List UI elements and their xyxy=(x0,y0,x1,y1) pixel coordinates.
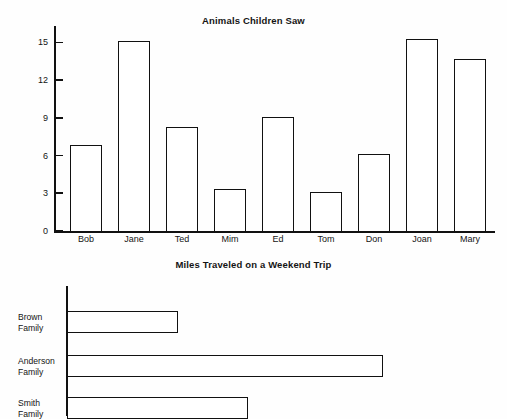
bar-jane xyxy=(118,41,150,232)
y-tick-label: 0 xyxy=(4,226,48,236)
bar-don xyxy=(358,154,390,232)
x-label-bob: Bob xyxy=(61,234,111,244)
category-label-line: Family xyxy=(18,409,64,419)
bar-anderson-family xyxy=(67,355,383,377)
bar-ed xyxy=(262,117,294,232)
y-tick-label: 6 xyxy=(4,151,48,161)
bar-tom xyxy=(310,192,342,232)
y-tick-label: 15 xyxy=(4,37,48,47)
x-label-joan: Joan xyxy=(397,234,447,244)
bar-joan xyxy=(406,39,438,232)
y-tick-mark xyxy=(56,42,63,44)
x-label-tom: Tom xyxy=(301,234,351,244)
miles-traveled-chart: Miles Traveled on a Weekend Trip BrownFa… xyxy=(0,252,507,416)
category-label-line: Smith xyxy=(18,398,64,409)
bar-mary xyxy=(454,59,486,232)
x-label-jane: Jane xyxy=(109,234,159,244)
y-tick-mark xyxy=(56,192,63,194)
y-tick-mark xyxy=(56,79,63,81)
y-axis-line xyxy=(54,26,56,233)
category-label-smith: SmithFamily xyxy=(18,398,64,419)
bar-mim xyxy=(214,189,246,232)
bar-bob xyxy=(70,145,102,232)
y-tick-mark xyxy=(56,117,63,119)
horizontal-bar-plot-area: BrownFamilyAndersonFamilySmithFamily xyxy=(0,252,507,416)
x-label-ed: Ed xyxy=(253,234,303,244)
x-label-mary: Mary xyxy=(445,234,495,244)
category-label-line: Anderson xyxy=(18,356,64,367)
x-label-don: Don xyxy=(349,234,399,244)
y-tick-mark xyxy=(56,155,63,157)
category-label-line: Family xyxy=(18,323,64,334)
category-label-anderson: AndersonFamily xyxy=(18,356,64,377)
x-label-ted: Ted xyxy=(157,234,207,244)
y-tick-mark xyxy=(56,230,63,232)
vertical-bar-plot-area: 03691215 BobJaneTedMimEdTomDonJoanMary xyxy=(0,0,507,252)
bar-smith-family xyxy=(67,397,248,419)
category-label-line: Brown xyxy=(18,312,64,323)
bar-brown-family xyxy=(67,311,178,333)
bar-ted xyxy=(166,127,198,232)
x-label-mim: Mim xyxy=(205,234,255,244)
y-tick-label: 9 xyxy=(4,113,48,123)
y-tick-label: 12 xyxy=(4,75,48,85)
category-label-brown: BrownFamily xyxy=(18,312,64,333)
category-label-line: Family xyxy=(18,367,64,378)
animals-children-saw-chart: Animals Children Saw 03691215 BobJaneTed… xyxy=(0,0,507,252)
y-tick-label: 3 xyxy=(4,188,48,198)
